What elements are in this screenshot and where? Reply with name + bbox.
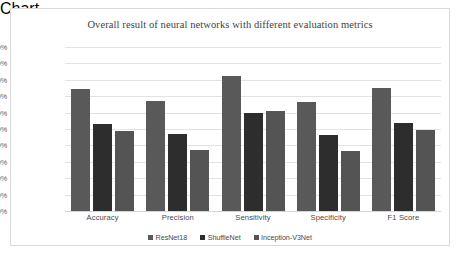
bar[interactable] <box>71 89 90 211</box>
legend-item[interactable]: ShuffleNet <box>200 233 240 242</box>
bar[interactable] <box>190 150 209 211</box>
y-axis-tick-label: 100.00% <box>0 43 7 52</box>
y-axis-tick-label: 99.50% <box>0 59 7 68</box>
plot-area <box>65 47 441 211</box>
x-axis-category-label: Specificity <box>291 213 366 229</box>
legend-item[interactable]: ResNet18 <box>148 233 187 242</box>
y-axis-tick-label: 95.00% <box>0 207 7 216</box>
bar[interactable] <box>372 88 391 211</box>
x-axis-category-label: Precision <box>140 213 215 229</box>
x-axis-category-label: Accuracy <box>65 213 140 229</box>
legend-swatch-icon <box>200 235 205 240</box>
legend-label: ShuffleNet <box>208 233 241 242</box>
bar[interactable] <box>93 124 112 211</box>
legend-swatch-icon <box>148 235 153 240</box>
bar-group <box>215 47 290 211</box>
y-axis-tick-label: 96.00% <box>0 174 7 183</box>
bar[interactable] <box>146 101 165 211</box>
chart-legend: ResNet18ShuffleNetInception-V3Net <box>11 233 449 242</box>
y-axis-tick-label: 97.50% <box>0 125 7 134</box>
x-axis-category-labels: AccuracyPrecisionSensitivitySpecificityF… <box>65 213 441 229</box>
gridline <box>65 211 441 212</box>
legend-swatch-icon <box>254 235 259 240</box>
bar[interactable] <box>394 123 413 211</box>
y-axis-tick-label: 98.50% <box>0 92 7 101</box>
bar[interactable] <box>416 130 435 211</box>
bar[interactable] <box>319 135 338 211</box>
chart-title: Overall result of neural networks with d… <box>11 19 449 30</box>
bar-group <box>140 47 215 211</box>
y-axis-tick-label: 97.00% <box>0 141 7 150</box>
legend-item[interactable]: Inception-V3Net <box>254 233 312 242</box>
chart-frame: Overall result of neural networks with d… <box>10 8 450 246</box>
bar[interactable] <box>266 111 285 211</box>
x-axis-category-label: Sensitivity <box>215 213 290 229</box>
y-axis-tick-label: 99.00% <box>0 75 7 84</box>
bar-group <box>366 47 441 211</box>
bar-groups <box>65 47 441 211</box>
legend-label: ResNet18 <box>156 233 188 242</box>
bar[interactable] <box>297 102 316 211</box>
bar[interactable] <box>244 113 263 211</box>
y-axis-tick-labels: 100.00%99.50%99.00%98.50%98.00%97.50%97.… <box>0 47 9 211</box>
x-axis-category-label: F1 Score <box>366 213 441 229</box>
legend-label: Inception-V3Net <box>261 233 312 242</box>
bar[interactable] <box>115 131 134 211</box>
bar-group <box>291 47 366 211</box>
bar-group <box>65 47 140 211</box>
y-axis-tick-label: 95.50% <box>0 190 7 199</box>
bar[interactable] <box>341 151 360 211</box>
y-axis-tick-label: 96.50% <box>0 157 7 166</box>
bar[interactable] <box>168 134 187 211</box>
y-axis-tick-label: 98.00% <box>0 108 7 117</box>
bar[interactable] <box>222 76 241 211</box>
